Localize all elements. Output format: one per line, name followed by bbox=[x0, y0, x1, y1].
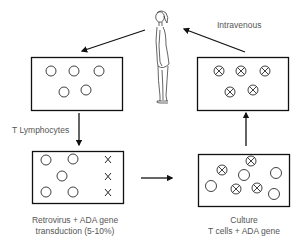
arrow-infusion-to-patient bbox=[184, 29, 245, 52]
label-intravenous: Intravenous bbox=[217, 20, 261, 31]
box-culture bbox=[199, 155, 290, 207]
label-culture-line2: T cells + ADA gene bbox=[194, 226, 294, 237]
label-transduction-line2: transduction (5-10%) bbox=[20, 226, 130, 237]
label-t-lymphocytes: T Lymphocytes bbox=[12, 125, 69, 136]
label-culture-line1: Culture bbox=[194, 215, 294, 226]
gene-therapy-diagram bbox=[0, 0, 306, 241]
label-transduction-line1: Retrovirus + ADA gene bbox=[20, 215, 130, 226]
patient-figure bbox=[156, 11, 169, 103]
arrow-patient-to-harvest bbox=[82, 30, 145, 51]
box-harvested-cells bbox=[32, 58, 123, 111]
label-transduction: Retrovirus + ADA gene transduction (5-10… bbox=[20, 215, 130, 237]
box-modified-cells bbox=[198, 58, 289, 111]
label-culture: Culture T cells + ADA gene bbox=[194, 215, 294, 237]
box-transduction bbox=[33, 152, 124, 204]
